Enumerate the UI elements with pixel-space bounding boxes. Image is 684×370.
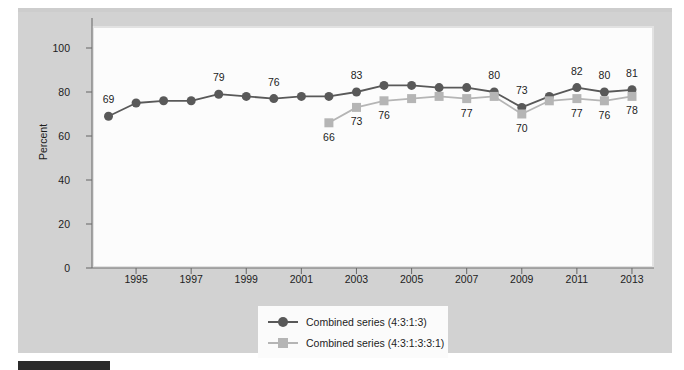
- data-label: 79: [206, 72, 232, 83]
- bottom-accent-bar: [18, 361, 110, 370]
- y-tick-label: 40: [40, 175, 70, 186]
- data-label: 80: [591, 70, 617, 81]
- data-label: 83: [343, 70, 369, 81]
- data-label: 69: [96, 94, 122, 105]
- y-tick-label: 60: [40, 131, 70, 142]
- plot-area: [92, 26, 654, 268]
- legend-marker-circle-icon: [268, 316, 298, 328]
- data-label: 78: [619, 105, 645, 116]
- y-tick-label: 20: [40, 219, 70, 230]
- legend-marker-square-icon: [268, 337, 298, 349]
- x-tick-label: 2009: [502, 274, 542, 285]
- data-label: 73: [343, 116, 369, 127]
- x-tick-label: 1995: [116, 274, 156, 285]
- data-label: 66: [316, 132, 342, 143]
- data-label: 82: [564, 66, 590, 77]
- data-label: 76: [261, 77, 287, 88]
- x-tick-label: 2001: [281, 274, 321, 285]
- legend-label-series-1: Combined series (4:3:1:3): [306, 316, 427, 328]
- x-tick-label: 1997: [171, 274, 211, 285]
- y-tick-label: 100: [40, 43, 70, 54]
- figure-panel: Percent 02040608010019951997199920012003…: [18, 8, 672, 353]
- x-tick-label: 2013: [612, 274, 652, 285]
- x-tick-label: 2005: [392, 274, 432, 285]
- x-tick-label: 2003: [336, 274, 376, 285]
- data-label: 77: [564, 108, 590, 119]
- data-label: 73: [509, 85, 535, 96]
- legend-item-series-1[interactable]: Combined series (4:3:1:3): [268, 314, 427, 330]
- y-axis-title: Percent: [37, 112, 49, 172]
- data-label: 70: [509, 123, 535, 134]
- x-tick-label: 2011: [557, 274, 597, 285]
- x-tick-label: 2007: [447, 274, 487, 285]
- data-label: 81: [619, 68, 645, 79]
- y-tick-label: 0: [40, 263, 70, 274]
- x-tick-label: 1999: [226, 274, 266, 285]
- y-tick-label: 80: [40, 87, 70, 98]
- data-label: 76: [591, 110, 617, 121]
- chart-legend: Combined series (4:3:1:3) Combined serie…: [258, 306, 448, 358]
- data-label: 77: [454, 108, 480, 119]
- data-label: 76: [371, 110, 397, 121]
- legend-label-series-2: Combined series (4:3:1:3:3:1): [306, 337, 444, 349]
- legend-item-series-2[interactable]: Combined series (4:3:1:3:3:1): [268, 335, 444, 351]
- data-label: 80: [481, 70, 507, 81]
